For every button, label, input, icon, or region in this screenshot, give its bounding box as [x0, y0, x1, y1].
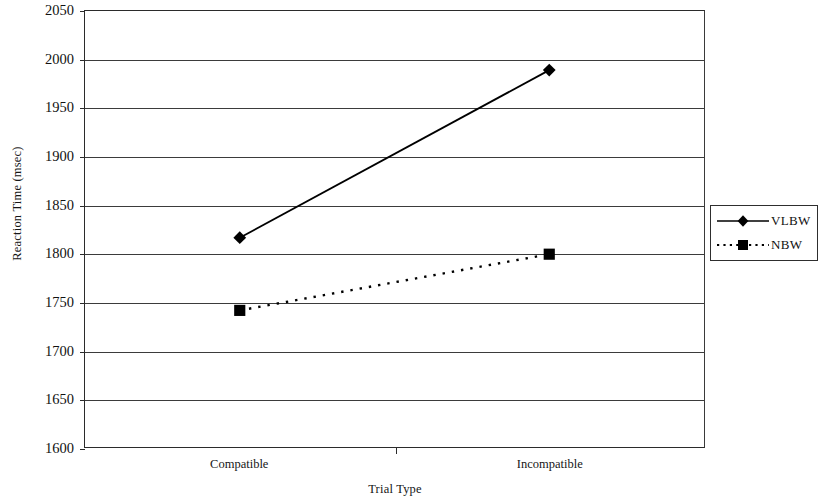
y-tickmark	[80, 400, 85, 401]
gridline	[85, 400, 704, 401]
y-tick-label: 1650	[16, 392, 74, 407]
gridline	[85, 303, 704, 304]
series-layer	[85, 11, 704, 447]
series-line-vlbw	[240, 70, 550, 238]
x-tickmark	[396, 447, 397, 454]
data-point-marker-nbw	[234, 305, 245, 316]
y-tickmark	[80, 303, 85, 304]
series-line-nbw	[240, 254, 550, 310]
y-tick-label: 1800	[16, 246, 74, 261]
gridline	[85, 60, 704, 61]
y-tick-label: 1850	[16, 198, 74, 213]
y-tick-label: 1950	[16, 100, 74, 115]
y-tickmark	[80, 108, 85, 109]
data-point-marker-vlbw	[543, 64, 556, 77]
y-tick-label: 1900	[16, 149, 74, 164]
legend-entry-vlbw: VLBW	[711, 209, 817, 233]
legend: VLBW NBW	[710, 205, 818, 261]
y-tickmark	[80, 11, 85, 12]
legend-entry-nbw: NBW	[711, 233, 817, 257]
y-tick-label: 2000	[16, 52, 74, 67]
y-tickmark	[80, 60, 85, 61]
y-tickmark	[80, 352, 85, 353]
y-tickmark	[80, 206, 85, 207]
y-tickmark	[80, 449, 85, 450]
gridline	[85, 108, 704, 109]
legend-key-dotted-square	[715, 234, 771, 256]
gridline	[85, 254, 704, 255]
gridline	[85, 352, 704, 353]
legend-label-vlbw: VLBW	[771, 213, 810, 229]
y-tickmark	[80, 157, 85, 158]
gridline	[85, 157, 704, 158]
legend-key-solid-diamond	[715, 210, 771, 232]
y-tickmark	[80, 254, 85, 255]
y-tick-label: 1750	[16, 295, 74, 310]
data-point-marker-vlbw	[233, 231, 246, 244]
x-tick-label: Compatible	[139, 457, 339, 472]
y-tick-label: 2050	[16, 3, 74, 18]
y-tick-label: 1700	[16, 344, 74, 359]
x-axis-title: Trial Type	[295, 482, 495, 497]
gridline	[85, 206, 704, 207]
x-tick-label: Incompatible	[450, 457, 650, 472]
y-tick-label: 1600	[16, 441, 74, 456]
plot-area	[84, 10, 705, 448]
legend-label-nbw: NBW	[771, 237, 802, 253]
line-chart-figure: Reaction Time (msec) 1600165017001750180…	[0, 0, 820, 503]
